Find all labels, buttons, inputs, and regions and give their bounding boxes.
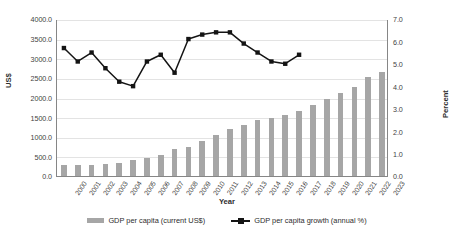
x-tick-label: 2006 bbox=[157, 180, 171, 196]
line-marker bbox=[297, 53, 301, 57]
line-marker bbox=[228, 30, 232, 34]
line-marker bbox=[269, 59, 273, 63]
line-marker bbox=[89, 50, 93, 54]
line-marker bbox=[172, 71, 176, 75]
y-tick-label-left: 2500.0 bbox=[6, 75, 52, 82]
line-marker bbox=[145, 59, 149, 63]
y-tick-label-left: 1000.0 bbox=[6, 134, 52, 141]
legend-label: GDP per capita growth (annual %) bbox=[254, 216, 366, 225]
line-path bbox=[64, 32, 299, 86]
line-marker bbox=[76, 59, 80, 63]
x-tick-label: 2011 bbox=[226, 180, 240, 196]
line-marker bbox=[62, 46, 66, 50]
y-axis-title-right: Percent bbox=[441, 90, 450, 118]
y-tick-label-left: 3000.0 bbox=[6, 56, 52, 63]
y-tick-label-right: 7.0 bbox=[393, 16, 423, 23]
line-marker bbox=[242, 41, 246, 45]
y-tick-label-left: 500.0 bbox=[6, 154, 52, 161]
x-tick-label: 2018 bbox=[323, 180, 337, 196]
y-tick-label-left: 4000.0 bbox=[6, 16, 52, 23]
x-tick-label: 2023 bbox=[392, 180, 406, 196]
line-marker bbox=[283, 62, 287, 66]
y-tick-label-right: 3.0 bbox=[393, 106, 423, 113]
plot-area bbox=[56, 20, 388, 177]
y-tick-label-left: 2000.0 bbox=[6, 95, 52, 102]
line-marker-swatch-icon bbox=[231, 217, 250, 224]
legend-item-gdp-growth[interactable]: GDP per capita growth (annual %) bbox=[231, 216, 366, 225]
y-tick-label-right: 1.0 bbox=[393, 151, 423, 158]
chart-legend: GDP per capita (current US$) GDP per cap… bbox=[0, 216, 454, 225]
legend-item-gdp-per-capita[interactable]: GDP per capita (current US$) bbox=[87, 216, 205, 225]
y-tick-label-right: 4.0 bbox=[393, 84, 423, 91]
x-tick-label: 2008 bbox=[184, 180, 198, 196]
y-tick-label-left: 3500.0 bbox=[6, 36, 52, 43]
x-axis-title: Year bbox=[0, 197, 454, 206]
x-tick-label: 2007 bbox=[171, 180, 185, 196]
line-marker bbox=[117, 79, 121, 83]
line-marker bbox=[186, 37, 190, 41]
x-tick-label: 2021 bbox=[364, 180, 378, 196]
x-tick-label: 2013 bbox=[254, 180, 268, 196]
y-tick-label-right: 6.0 bbox=[393, 39, 423, 46]
x-tick-label: 2004 bbox=[129, 180, 143, 196]
line-marker bbox=[131, 84, 135, 88]
x-tick-label: 2014 bbox=[267, 180, 281, 196]
line-marker bbox=[159, 53, 163, 57]
x-tick-label: 2009 bbox=[198, 180, 212, 196]
x-tick-label: 2012 bbox=[240, 180, 254, 196]
y-tick-label-left: 0.0 bbox=[6, 173, 52, 180]
line-marker bbox=[214, 30, 218, 34]
x-tick-label: 2005 bbox=[143, 180, 157, 196]
line-marker bbox=[103, 66, 107, 70]
y-tick-label-right: 0.0 bbox=[393, 173, 423, 180]
x-tick-label: 2016 bbox=[295, 180, 309, 196]
x-tick-label: 2010 bbox=[212, 180, 226, 196]
y-tick-label-right: 5.0 bbox=[393, 61, 423, 68]
line-marker bbox=[255, 50, 259, 54]
x-tick-label: 2019 bbox=[337, 180, 351, 196]
x-tick-label: 2000 bbox=[74, 180, 88, 196]
line-series bbox=[57, 20, 389, 177]
y-tick-label-right: 2.0 bbox=[393, 129, 423, 136]
chart-container: US$ Percent Year 0.0500.01000.01500.0200… bbox=[0, 0, 454, 239]
x-tick-label: 2022 bbox=[378, 180, 392, 196]
x-tick-label: 2015 bbox=[281, 180, 295, 196]
bar-swatch-icon bbox=[87, 218, 104, 223]
x-tick-label: 2001 bbox=[88, 180, 102, 196]
x-tick-label: 2017 bbox=[309, 180, 323, 196]
line-marker bbox=[200, 32, 204, 36]
y-tick-label-left: 1500.0 bbox=[6, 115, 52, 122]
legend-label: GDP per capita (current US$) bbox=[108, 216, 205, 225]
x-tick-label: 2003 bbox=[115, 180, 129, 196]
x-tick-label: 2020 bbox=[350, 180, 364, 196]
x-tick-label: 2002 bbox=[101, 180, 115, 196]
